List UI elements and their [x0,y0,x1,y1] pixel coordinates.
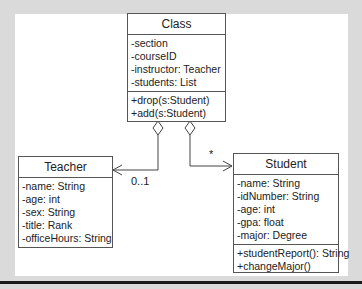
class-box-student[interactable]: Student -name: String -idNumber: String … [233,153,339,273]
method: +drop(s:Student) [131,94,222,107]
attribute: -instructor: Teacher [131,63,222,76]
attribute: -name: String [237,177,335,190]
aggregation-diamond-icon [153,121,163,135]
attribute: -name: String [22,180,109,193]
method: +add(s:Student) [131,107,222,120]
attribute: -courseID [131,50,222,63]
divider [0,281,362,284]
multiplicity-student: * [209,148,213,160]
multiplicity-teacher: 0..1 [131,175,149,187]
attribute: -age: int [237,203,335,216]
attributes-section: -name: String -idNumber: String -age: in… [234,175,338,245]
attribute: -major: Degree [237,229,335,242]
attribute: -age: int [22,193,109,206]
attribute: -section [131,37,222,50]
class-box-class[interactable]: Class -section -courseID -instructor: Te… [127,13,226,122]
attributes-section: -name: String -age: int -sex: String -ti… [19,178,112,248]
methods-section: +studentReport(): String +changeMajor() [234,245,338,275]
aggregation-diamond-icon [185,121,195,135]
attributes-section: -section -courseID -instructor: Teacher … [128,35,225,92]
attribute: -gpa: float [237,216,335,229]
methods-section [19,248,112,251]
methods-section: +drop(s:Student) +add(s:Student) [128,92,225,122]
attribute: -officeHours: String [22,232,109,245]
class-name: Teacher [19,157,112,178]
method: +studentReport(): String [237,247,335,260]
class-name: Student [234,154,338,175]
method: +changeMajor() [237,260,335,273]
class-box-teacher[interactable]: Teacher -name: String -age: int -sex: St… [18,156,113,248]
attribute: -title: Rank [22,219,109,232]
attribute: -sex: String [22,206,109,219]
attribute: -students: List [131,76,222,89]
class-name: Class [128,14,225,35]
attribute: -idNumber: String [237,190,335,203]
